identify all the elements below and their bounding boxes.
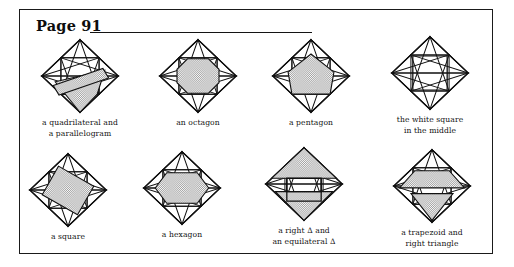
figure-square: a square: [12, 148, 124, 243]
figure-art-white-square-middle: [374, 31, 486, 115]
figure-art-pentagon: [255, 34, 367, 118]
shaded-right-triangle: [411, 194, 453, 221]
figure-caption: an octagon: [142, 118, 254, 129]
figure-pentagon: a pentagon: [255, 34, 367, 129]
figure-octagon: an octagon: [142, 34, 254, 129]
figure-art-hexagon: [126, 146, 238, 230]
figure-caption: a hexagon: [126, 230, 238, 241]
figure-art-square: [12, 148, 124, 232]
figure-hexagon: a hexagon: [126, 146, 238, 241]
title-underline-rule: [90, 32, 312, 33]
shaded-hexagon: [155, 173, 208, 204]
figure-art-trapezoid-right-triangle: [376, 144, 488, 228]
diamond-star-lattice: [392, 37, 468, 110]
shaded-trapezoid: [400, 171, 465, 188]
figure-right-and-equilateral-triangle: a right Δ and an equilateral Δ: [248, 142, 360, 247]
figure-caption: a trapezoid and right triangle: [376, 228, 488, 249]
figure-caption: the white square in the middle: [374, 115, 486, 136]
figure-art-octagon: [142, 34, 254, 118]
figure-art-quadrilateral-parallelogram: [24, 34, 136, 118]
figure-trapezoid-right-triangle: a trapezoid and right triangle: [376, 144, 488, 249]
shaded-pentagon: [288, 54, 334, 94]
figure-caption: a pentagon: [255, 118, 367, 129]
shaded-octagon: [177, 59, 219, 93]
figure-caption: a right Δ and an equilateral Δ: [248, 226, 360, 247]
figure-caption: a quadrilateral and a parallelogram: [24, 118, 136, 139]
figure-caption: a square: [12, 232, 124, 243]
figure-white-square-middle: the white square in the middle: [374, 31, 486, 136]
worksheet-page: Page 91 a quadrilateral and a p: [0, 0, 514, 267]
shaded-equilateral-triangle: [272, 148, 337, 179]
figure-quadrilateral-parallelogram: a quadrilateral and a parallelogram: [24, 34, 136, 139]
shaded-right-triangle: [275, 192, 332, 221]
figure-art-right-and-equilateral-triangle: [248, 142, 360, 226]
